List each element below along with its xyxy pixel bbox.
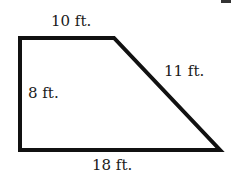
slant-side-label: 11 ft. bbox=[164, 64, 204, 79]
trapezoid-diagram: 10 ft. 8 ft. 11 ft. 18 ft. bbox=[0, 0, 231, 178]
top-side-label: 10 ft. bbox=[51, 14, 91, 29]
bottom-side-label: 18 ft. bbox=[92, 158, 132, 173]
left-side-label: 8 ft. bbox=[28, 86, 59, 101]
